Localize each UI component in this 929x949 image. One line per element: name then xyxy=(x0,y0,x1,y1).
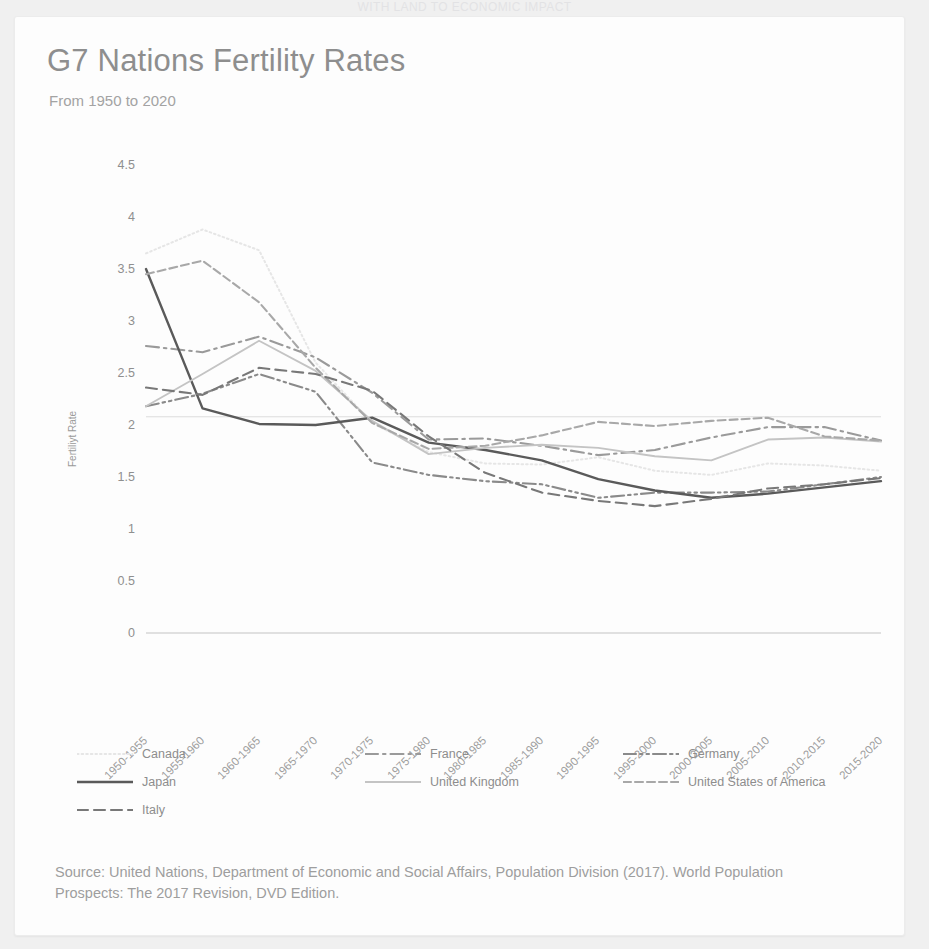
y-tick-label: 3.5 xyxy=(95,262,135,276)
legend-swatch-canada-icon xyxy=(77,748,133,760)
legend-label: Canada xyxy=(142,747,186,761)
cropped-header-text: WITH LAND TO ECONOMIC IMPACT xyxy=(0,0,929,16)
y-tick-label: 0 xyxy=(95,626,135,640)
chart-card: G7 Nations Fertility Rates From 1950 to … xyxy=(14,16,905,936)
y-tick-label: 3 xyxy=(95,314,135,328)
y-axis-ticks: 00.511.522.533.544.5 xyxy=(93,127,135,657)
line-chart-svg xyxy=(15,127,904,657)
legend-item-germany[interactable]: Germany xyxy=(623,747,739,761)
legend-swatch-japan-icon xyxy=(77,776,133,788)
y-tick-label: 1 xyxy=(95,522,135,536)
legend-label: Japan xyxy=(142,775,176,789)
y-tick-label: 2 xyxy=(95,418,135,432)
series-line-united-states-of-america xyxy=(146,261,881,449)
series-line-france xyxy=(146,337,881,456)
legend-label: Italy xyxy=(142,803,165,817)
legend-swatch-germany-icon xyxy=(623,748,679,760)
legend-swatch-italy-icon xyxy=(77,804,133,816)
legend-item-france[interactable]: France xyxy=(365,747,469,761)
plot-area: Fertiliyt Rate 00.511.522.533.544.5 1950… xyxy=(15,127,904,657)
legend-row: Italy xyxy=(15,803,904,831)
y-tick-label: 4.5 xyxy=(95,158,135,172)
y-tick-label: 0.5 xyxy=(95,574,135,588)
legend-item-usa[interactable]: United States of America xyxy=(623,775,826,789)
chart-legend: CanadaFranceGermanyJapanUnited KingdomUn… xyxy=(15,747,904,831)
series-line-germany xyxy=(146,374,881,498)
y-tick-label: 2.5 xyxy=(95,366,135,380)
legend-item-canada[interactable]: Canada xyxy=(77,747,186,761)
y-axis-title: Fertiliyt Rate xyxy=(67,411,78,467)
source-note: Source: United Nations, Department of Ec… xyxy=(55,862,845,904)
legend-swatch-united-kingdom-icon xyxy=(365,776,421,788)
legend-item-japan[interactable]: Japan xyxy=(77,775,176,789)
legend-row: JapanUnited KingdomUnited States of Amer… xyxy=(15,775,904,803)
legend-label: France xyxy=(430,747,469,761)
legend-item-italy[interactable]: Italy xyxy=(77,803,165,817)
legend-swatch-usa-icon xyxy=(623,776,679,788)
legend-row: CanadaFranceGermany xyxy=(15,747,904,775)
legend-swatch-france-icon xyxy=(365,748,421,760)
y-tick-label: 4 xyxy=(95,210,135,224)
y-tick-label: 1.5 xyxy=(95,470,135,484)
series-line-canada xyxy=(146,229,881,474)
legend-label: United Kingdom xyxy=(430,775,519,789)
series-line-italy xyxy=(146,368,881,506)
screenshot-page: WITH LAND TO ECONOMIC IMPACT G7 Nations … xyxy=(0,0,929,949)
page-title: G7 Nations Fertility Rates xyxy=(47,43,405,79)
legend-label: United States of America xyxy=(688,775,826,789)
legend-label: Germany xyxy=(688,747,739,761)
chart-subtitle: From 1950 to 2020 xyxy=(49,92,176,109)
legend-item-united-kingdom[interactable]: United Kingdom xyxy=(365,775,519,789)
